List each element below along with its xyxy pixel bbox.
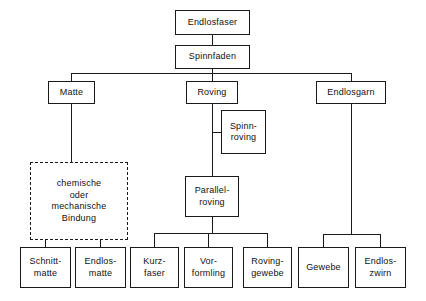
node-gewebe-label: Gewebe: [304, 262, 343, 274]
node-endlosgarn[interactable]: Endlosgarn: [316, 81, 386, 104]
node-endlosgarn-label: Endlosgarn: [325, 87, 376, 99]
node-rovinggewebe-label: Roving- gewebe: [249, 256, 286, 279]
edge-parallelroving-bus: [154, 233, 268, 234]
node-schnittmatte-label: Schnitt- matte: [28, 256, 64, 279]
node-spinnfaden-label: Spinnfaden: [187, 51, 238, 63]
node-bindung-label: chemische oder mechanische Bindung: [49, 178, 108, 224]
edge-bus-to-roving: [212, 73, 213, 81]
node-endlosfaser-label: Endlosfaser: [186, 17, 240, 29]
edge-roving-trunk: [212, 104, 213, 176]
edge-roving-spinnroving: [212, 132, 221, 133]
node-spinnroving-label: Spinn- roving: [228, 121, 259, 144]
edge-bus-to-vorformling: [208, 233, 209, 247]
node-spinnroving[interactable]: Spinn- roving: [221, 110, 266, 154]
node-rovinggewebe[interactable]: Roving- gewebe: [243, 247, 292, 288]
node-kurzfaser[interactable]: Kurz- faser: [130, 247, 179, 288]
node-parallelroving-label: Parallel- roving: [193, 185, 232, 208]
node-parallelroving[interactable]: Parallel- roving: [185, 176, 239, 217]
edge-bus-to-kurzfaser: [154, 233, 155, 247]
edge-bus-to-endloszwirn: [380, 234, 381, 247]
edge-bus-to-endlosgarn: [351, 73, 352, 81]
edge-matte-bindung: [71, 104, 72, 162]
diagram-canvas: Endlosfaser Spinnfaden Matte Roving Endl…: [0, 0, 426, 301]
edge-bus-to-matte: [71, 73, 72, 81]
node-endloszwirn-label: Endlos- zwirn: [363, 256, 399, 279]
node-kurzfaser-label: Kurz- faser: [141, 256, 167, 279]
node-roving[interactable]: Roving: [186, 81, 238, 104]
edge-endlosgarn-trunk: [351, 104, 352, 234]
node-vorformling[interactable]: Vor- formling: [184, 247, 233, 288]
node-matte[interactable]: Matte: [48, 81, 95, 104]
edge-bus-to-gewebe: [323, 234, 324, 247]
node-vorformling-label: Vor- formling: [190, 256, 227, 279]
edge-endlosgarn-bus: [323, 234, 381, 235]
edge-bus-to-rovinggewebe: [267, 233, 268, 247]
node-matte-label: Matte: [58, 87, 85, 99]
node-roving-label: Roving: [195, 87, 228, 99]
edge-endlosfaser-spinnfaden: [212, 35, 213, 45]
node-endlosfaser[interactable]: Endlosfaser: [175, 10, 250, 35]
node-schnittmatte[interactable]: Schnitt- matte: [20, 247, 71, 288]
node-spinnfaden[interactable]: Spinnfaden: [175, 45, 250, 69]
node-endloszwirn[interactable]: Endlos- zwirn: [355, 247, 406, 288]
node-endlosmatte-label: Endlos- matte: [83, 256, 119, 279]
node-endlosmatte[interactable]: Endlos- matte: [75, 247, 126, 288]
node-bindung[interactable]: chemische oder mechanische Bindung: [30, 162, 128, 240]
node-gewebe[interactable]: Gewebe: [298, 247, 349, 288]
edge-parallelroving-stem: [212, 217, 213, 233]
